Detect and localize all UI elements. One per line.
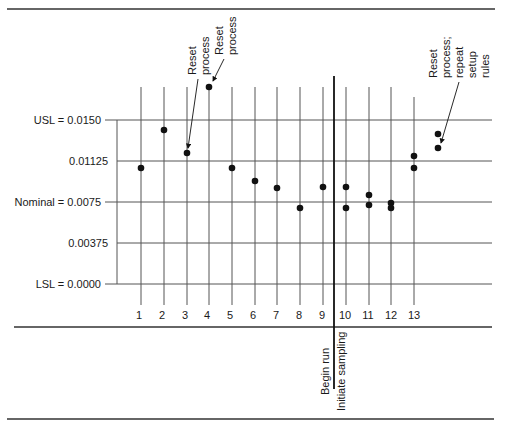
data-point bbox=[343, 184, 350, 191]
data-point bbox=[388, 205, 395, 212]
data-point bbox=[366, 202, 373, 209]
data-point bbox=[161, 127, 168, 134]
data-point bbox=[206, 84, 213, 91]
data-point bbox=[411, 165, 418, 172]
data-point bbox=[435, 145, 442, 152]
data-point bbox=[435, 131, 442, 138]
svg-text:4: 4 bbox=[204, 309, 210, 321]
svg-text:10: 10 bbox=[339, 309, 351, 321]
svg-text:process;: process; bbox=[440, 36, 452, 78]
upper-mid-label: 0.01125 bbox=[69, 155, 108, 167]
svg-text:Reset: Reset bbox=[186, 46, 198, 75]
svg-text:Reset: Reset bbox=[427, 49, 439, 78]
data-point bbox=[229, 165, 236, 172]
data-point bbox=[274, 185, 281, 192]
y-axis-labels: USL = 0.0150 0.01125 Nominal = 0.0075 0.… bbox=[14, 114, 108, 290]
svg-text:6: 6 bbox=[250, 309, 256, 321]
data-point bbox=[411, 153, 418, 160]
svg-text:3: 3 bbox=[182, 309, 188, 321]
arrow-icon bbox=[441, 82, 459, 143]
horizontal-gridlines bbox=[105, 120, 492, 284]
lsl-label: LSL = 0.0000 bbox=[36, 278, 101, 290]
data-point bbox=[343, 205, 350, 212]
svg-text:Reset: Reset bbox=[213, 26, 225, 55]
arrow-icon bbox=[188, 79, 198, 148]
svg-text:2: 2 bbox=[159, 309, 165, 321]
data-point bbox=[297, 205, 304, 212]
begin-run-label: Begin run bbox=[319, 348, 331, 395]
initiate-sampling-label: Initiate sampling bbox=[335, 332, 347, 412]
nominal-label: Nominal = 0.0075 bbox=[14, 196, 101, 208]
svg-text:rules: rules bbox=[479, 54, 491, 78]
annotation-reset-3: Reset process bbox=[186, 36, 211, 148]
arrow-icon bbox=[213, 59, 224, 81]
svg-text:13: 13 bbox=[408, 309, 420, 321]
svg-text:repeat: repeat bbox=[453, 47, 465, 78]
data-point bbox=[184, 150, 191, 157]
x-tick-labels: 1 2 3 4 5 6 7 8 9 10 11 12 13 bbox=[136, 309, 420, 321]
svg-text:1: 1 bbox=[136, 309, 142, 321]
data-point bbox=[320, 184, 327, 191]
svg-text:8: 8 bbox=[296, 309, 302, 321]
svg-text:process: process bbox=[226, 16, 238, 55]
svg-text:9: 9 bbox=[319, 309, 325, 321]
data-points bbox=[138, 84, 442, 212]
svg-text:11: 11 bbox=[362, 309, 373, 321]
data-point bbox=[366, 192, 373, 199]
svg-text:setup: setup bbox=[466, 51, 478, 78]
control-chart: USL = 0.0150 0.01125 Nominal = 0.0075 0.… bbox=[0, 0, 506, 426]
usl-label: USL = 0.0150 bbox=[34, 114, 101, 126]
svg-text:12: 12 bbox=[385, 309, 397, 321]
data-point bbox=[138, 165, 145, 172]
svg-text:7: 7 bbox=[273, 309, 279, 321]
svg-text:process: process bbox=[199, 36, 211, 75]
lower-mid-label: 0.00375 bbox=[68, 237, 108, 249]
annotation-reset-repeat: Reset process; repeat setup rules bbox=[427, 36, 491, 143]
annotation-reset-4: Reset process bbox=[213, 16, 238, 81]
data-point bbox=[252, 178, 259, 185]
svg-text:5: 5 bbox=[227, 309, 233, 321]
